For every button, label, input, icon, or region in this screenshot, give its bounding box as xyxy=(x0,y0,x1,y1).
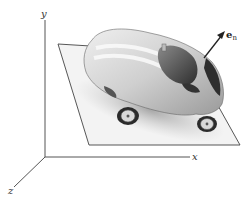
arrow-head-icon xyxy=(217,31,225,39)
front-wheel xyxy=(117,107,139,125)
z-axis-label: z xyxy=(7,185,14,196)
y-axis-label: y xyxy=(40,8,47,19)
diagram-canvas: y x z xyxy=(0,0,248,202)
normal-vector: en xyxy=(204,29,237,58)
x-axis-label: x xyxy=(192,151,198,162)
car-mirror xyxy=(162,44,166,51)
normal-vector-label: en xyxy=(226,29,237,42)
z-axis xyxy=(14,157,45,187)
rear-wheel xyxy=(197,116,217,132)
normal-arrow-shaft xyxy=(204,35,222,58)
